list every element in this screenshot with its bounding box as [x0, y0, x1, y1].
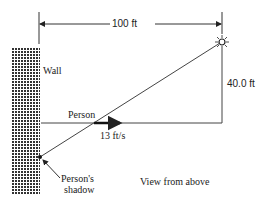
- wall-label: Wall: [43, 66, 62, 76]
- shadow-pointer-arrow: [43, 160, 60, 178]
- dimension-right-label: 40.0 ft: [227, 79, 255, 89]
- diagram-canvas: [0, 0, 262, 207]
- shadow-label-line2: shadow: [64, 185, 95, 195]
- caption: View from above: [140, 177, 209, 187]
- shadow-point: [38, 155, 42, 159]
- light-ray: [40, 43, 220, 157]
- shadow-label-line1: Person's: [61, 174, 94, 184]
- person-label: Person: [68, 110, 95, 120]
- dimension-top-label: 100 ft: [112, 19, 137, 29]
- speed-label: 13 ft/s: [100, 131, 125, 141]
- wall: [11, 47, 40, 195]
